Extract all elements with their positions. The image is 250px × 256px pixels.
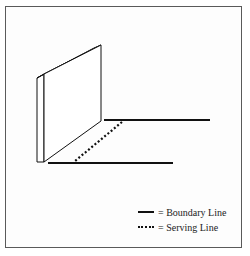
solid-line-icon: [138, 211, 154, 215]
legend: = Boundary Line = Serving Line: [138, 205, 243, 235]
legend-label-boundary: = Boundary Line: [158, 207, 226, 218]
legend-label-serving: = Serving Line: [158, 222, 218, 233]
wall-side-face: [37, 74, 44, 162]
wall-front-face: [44, 45, 101, 162]
legend-item-serving: = Serving Line: [138, 220, 243, 235]
dotted-line-icon: [138, 226, 154, 230]
legend-item-boundary: = Boundary Line: [138, 205, 243, 220]
